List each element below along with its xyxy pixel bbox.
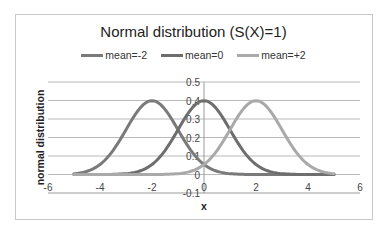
- x-tick-label: 6: [357, 182, 363, 193]
- x-tick-label: 0: [201, 182, 207, 193]
- y-tick-label: 0.2: [186, 133, 200, 144]
- x-tick-label: -2: [148, 182, 157, 193]
- x-axis-label: x: [201, 200, 207, 212]
- y-axis-label: normal distribution: [34, 90, 46, 186]
- y-tick-label: 0.5: [186, 77, 200, 88]
- x-tick-label: 2: [253, 182, 259, 193]
- x-tick-label: 4: [305, 182, 311, 193]
- y-tick-label: -0.1: [183, 188, 201, 199]
- plot-area: -6-4-20246-0.100.10.20.30.40.5xnormal di…: [0, 0, 387, 233]
- x-tick-label: -4: [96, 182, 105, 193]
